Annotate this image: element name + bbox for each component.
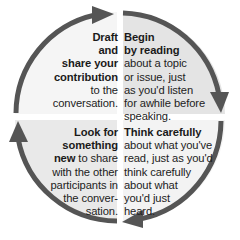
step-title-line: and [98, 44, 118, 56]
step-text-line: sation. [86, 205, 118, 217]
step-text-line: about a topic [124, 57, 187, 69]
step-text-line: about what [124, 179, 178, 191]
step-title-line: something [62, 139, 118, 151]
step-text-line: with the other [52, 166, 118, 178]
step-title-line: Think carefully [124, 126, 201, 138]
step-title-word: new [54, 152, 75, 164]
step-text-line: about what you've [124, 139, 212, 151]
step-text-line: read, just as you'd [124, 152, 213, 164]
step-text-line: heard. [124, 205, 155, 217]
step-text-line: think carefully [124, 166, 191, 178]
step-title-line: Look for [74, 126, 118, 138]
step-title-line: share your [62, 57, 118, 69]
step-text-line: or issue, just [124, 71, 185, 83]
step-text-line: speaking. [124, 110, 171, 122]
step-text-line: for awhile before [124, 97, 205, 109]
step-text-line: to the [91, 84, 118, 96]
step-title-line: Begin [124, 31, 155, 43]
step-title-line: contribution [54, 71, 118, 83]
step-text-line: you'd just [124, 192, 170, 204]
step-title-line: Draft [92, 31, 118, 43]
step-begin-reading: Begin by reading about a topic or issue,… [124, 31, 205, 123]
step-text-fragment: to share [75, 152, 118, 164]
step-text-line: as you'd listen [124, 84, 193, 96]
step-draft-share: Draft and share your contribution to the… [53, 31, 118, 110]
step-text-line: participants in [50, 179, 118, 191]
step-text-line: the conver- [63, 192, 118, 204]
step-look-for-new: Look for something new to share with the… [50, 126, 118, 218]
step-think-carefully: Think carefully about what you've read, … [124, 126, 213, 218]
step-title-line: by reading [124, 44, 180, 56]
step-text-line: conversation. [53, 97, 118, 109]
